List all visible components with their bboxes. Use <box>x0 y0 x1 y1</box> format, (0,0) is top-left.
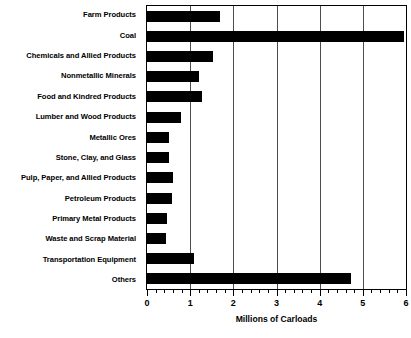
bar-row <box>147 26 406 46</box>
x-tick-minor <box>242 290 243 293</box>
x-tick-major <box>363 290 364 296</box>
bar-row <box>147 188 406 208</box>
category-label: Coal <box>0 25 141 45</box>
x-tick-label: 1 <box>188 297 193 310</box>
bar-chart: Farm ProductsCoalChemicals and Allied Pr… <box>0 0 411 338</box>
x-tick-minor <box>216 290 217 293</box>
bar-row <box>147 46 406 66</box>
x-tick-minor <box>337 290 338 293</box>
x-tick-major <box>233 290 234 296</box>
bar-rows <box>147 6 406 289</box>
x-tick-minor <box>199 290 200 293</box>
bar <box>147 152 169 163</box>
bar-row <box>147 168 406 188</box>
x-tick-label: 4 <box>317 297 322 310</box>
x-tick-minor <box>164 290 165 293</box>
bar-row <box>147 269 406 289</box>
x-tick-label: 6 <box>403 297 408 310</box>
bar <box>147 71 199 82</box>
bar-row <box>147 6 406 26</box>
x-tick-label: 0 <box>144 297 149 310</box>
category-axis-labels: Farm ProductsCoalChemicals and Allied Pr… <box>0 5 141 290</box>
bar <box>147 172 173 183</box>
x-tick-minor <box>354 290 355 293</box>
bar <box>147 132 169 143</box>
bar <box>147 193 172 204</box>
bar <box>147 11 220 22</box>
x-axis-tick-labels: 0123456 <box>146 297 407 310</box>
category-label: Nonmetallic Minerals <box>0 66 141 86</box>
bar <box>147 51 213 62</box>
category-label: Stone, Clay, and Glass <box>0 148 141 168</box>
bar-row <box>147 208 406 228</box>
bar <box>147 253 194 264</box>
bar-row <box>147 228 406 248</box>
x-tick-minor <box>173 290 174 293</box>
x-tick-minor <box>371 290 372 293</box>
x-tick-minor <box>311 290 312 293</box>
plot-area <box>146 5 407 290</box>
x-tick-minor <box>397 290 398 293</box>
category-label: Lumber and Wood Products <box>0 107 141 127</box>
bar <box>147 273 351 284</box>
bar-row <box>147 148 406 168</box>
x-tick-minor <box>346 290 347 293</box>
x-tick-label: 2 <box>231 297 236 310</box>
x-tick-major <box>277 290 278 296</box>
x-tick-minor <box>328 290 329 293</box>
bar-row <box>147 127 406 147</box>
x-tick-minor <box>294 290 295 293</box>
x-tick-minor <box>156 290 157 293</box>
x-tick-minor <box>207 290 208 293</box>
bar <box>147 112 181 123</box>
category-label: Metallic Ores <box>0 127 141 147</box>
x-tick-label: 5 <box>360 297 365 310</box>
category-label: Others <box>0 270 141 290</box>
x-tick-minor <box>380 290 381 293</box>
bar-row <box>147 107 406 127</box>
x-tick-minor <box>251 290 252 293</box>
x-tick-minor <box>285 290 286 293</box>
category-label: Transportation Equipment <box>0 249 141 269</box>
bar <box>147 91 202 102</box>
bar <box>147 213 167 224</box>
bar-row <box>147 67 406 87</box>
bar-row <box>147 87 406 107</box>
x-tick-major <box>190 290 191 296</box>
category-label: Food and Kindred Products <box>0 86 141 106</box>
x-axis-title: Millions of Carloads <box>146 314 407 324</box>
category-label: Farm Products <box>0 5 141 25</box>
x-tick-minor <box>268 290 269 293</box>
bar <box>147 233 166 244</box>
bar-row <box>147 249 406 269</box>
category-label: Pulp, Paper, and Allied Products <box>0 168 141 188</box>
x-tick-minor <box>389 290 390 293</box>
x-axis-ticks <box>146 290 407 296</box>
x-tick-minor <box>259 290 260 293</box>
x-tick-label: 3 <box>274 297 279 310</box>
category-label: Waste and Scrap Material <box>0 229 141 249</box>
x-tick-major <box>406 290 407 296</box>
x-tick-minor <box>225 290 226 293</box>
x-tick-major <box>147 290 148 296</box>
category-label: Primary Metal Products <box>0 209 141 229</box>
x-tick-major <box>320 290 321 296</box>
x-tick-minor <box>302 290 303 293</box>
category-label: Petroleum Products <box>0 188 141 208</box>
x-tick-minor <box>182 290 183 293</box>
category-label: Chemicals and Allied Products <box>0 46 141 66</box>
bar <box>147 31 404 42</box>
